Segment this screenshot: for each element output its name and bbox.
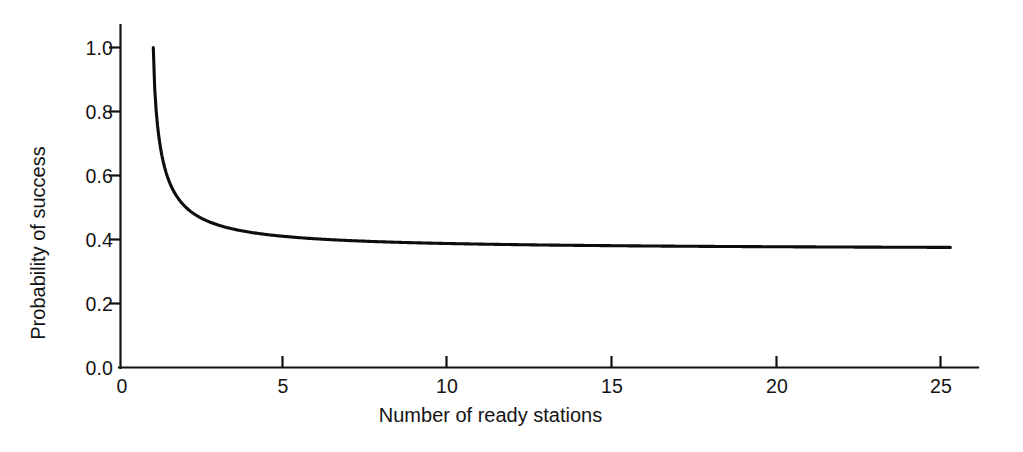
x-tick-label-20: 20 — [766, 375, 788, 398]
plot-canvas — [0, 0, 1023, 452]
y-axis-title-text: Probability of success — [23, 146, 53, 339]
x-axis-title: Number of ready stations — [0, 404, 1023, 427]
data-series-probability-of-success — [153, 48, 950, 248]
x-tick-label-15: 15 — [601, 375, 623, 398]
x-tick-label-10: 10 — [436, 375, 458, 398]
x-tick-label-0: 0 — [117, 375, 128, 398]
x-tick-label-5: 5 — [278, 375, 289, 398]
x-tick-label-25: 25 — [930, 375, 952, 398]
figure-container: 1.0 0.8 0.6 0.4 0.2 0.0 0 5 10 15 20 25 … — [0, 0, 1023, 452]
x-axis-title-text: Number of ready stations — [379, 404, 602, 427]
y-axis-title: Probability of success — [22, 0, 52, 452]
x-tick-marks — [283, 356, 941, 368]
